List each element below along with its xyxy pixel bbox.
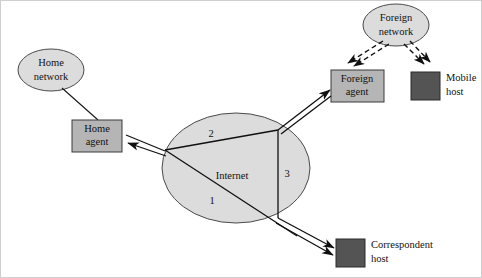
node-home-agent: Home agent: [72, 120, 122, 152]
edge-home-network-to-home-agent: [62, 88, 98, 120]
path-label-3: 3: [284, 168, 289, 179]
foreign-network-label-line2: network: [379, 26, 414, 37]
home-agent-label-line2: agent: [86, 136, 109, 147]
node-foreign-agent: Foreign agent: [331, 70, 384, 102]
path-label-2: 2: [208, 128, 213, 139]
node-home-network: Home network: [18, 49, 84, 91]
home-network-label-line1: Home: [38, 57, 64, 68]
edge-internet-to-home-agent: [126, 135, 166, 156]
node-foreign-network: Foreign network: [363, 4, 429, 46]
diagram-canvas: Home network Home agent Foreign agent: [0, 0, 482, 278]
edge-internet-to-correspondent-host: [276, 218, 334, 255]
node-correspondent-host: Correspondent host: [336, 239, 433, 267]
foreign-network-label-line1: Foreign: [380, 12, 413, 23]
foreign-agent-label-line2: agent: [346, 86, 369, 97]
home-network-label-line2: network: [34, 71, 69, 82]
node-mobile-host: Mobile host: [411, 72, 477, 100]
mobile-host-label-line1: Mobile: [446, 72, 477, 83]
mobile-host-label-line2: host: [446, 86, 464, 97]
foreign-agent-label-line1: Foreign: [341, 73, 374, 84]
home-agent-label-line1: Home: [84, 123, 110, 134]
correspondent-host-label-line1: Correspondent: [371, 239, 433, 250]
internet-label: Internet: [216, 170, 249, 181]
correspondent-host-label-line2: host: [371, 253, 389, 264]
path-label-1: 1: [209, 195, 214, 206]
